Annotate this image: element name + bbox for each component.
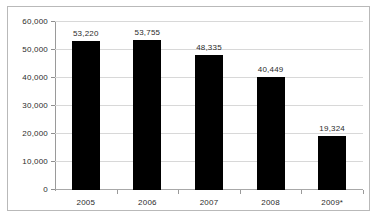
y-axis-label-20000: 20,000 (22, 129, 48, 138)
bar-value-label: 19,324 (319, 124, 345, 133)
bar-value-label: 48,335 (196, 43, 222, 52)
bar-value-label: 53,220 (73, 29, 99, 38)
bar[interactable] (318, 136, 346, 190)
y-axis-label-40000: 40,000 (22, 73, 48, 82)
bar[interactable] (72, 41, 100, 190)
x-axis-label: 2007 (200, 198, 219, 207)
bar-value-label: 53,755 (135, 28, 161, 37)
plot-area: 010,00020,00030,00040,00050,00060,000 53… (55, 22, 363, 190)
bar-value-label: 40,449 (258, 65, 284, 74)
x-tick-mark (178, 190, 179, 194)
x-tick-mark (363, 190, 364, 194)
bar[interactable] (195, 55, 223, 190)
chart-frame: 010,00020,00030,00040,00050,00060,000 53… (7, 6, 370, 211)
y-axis-label-60000: 60,000 (22, 17, 48, 26)
bar-group-2008: 40,4492008 (240, 22, 302, 190)
x-tick-mark (117, 190, 118, 194)
bar[interactable] (257, 77, 285, 190)
bar-group-2009: 19,3242009* (301, 22, 363, 190)
x-tick-mark (240, 190, 241, 194)
bar-group-2006: 53,7552006 (117, 22, 179, 190)
x-axis-label: 2008 (261, 198, 280, 207)
y-axis-label-0: 0 (43, 185, 48, 194)
bar-group-2007: 48,3352007 (178, 22, 240, 190)
x-axis-label: 2009* (321, 198, 343, 207)
x-tick-mark (301, 190, 302, 194)
bar[interactable] (133, 40, 161, 191)
x-axis-label: 2005 (76, 198, 95, 207)
bar-group-2005: 53,2202005 (55, 22, 117, 190)
y-axis-label-50000: 50,000 (22, 45, 48, 54)
x-axis-label: 2006 (138, 198, 157, 207)
y-axis-label-30000: 30,000 (22, 101, 48, 110)
y-axis-label-10000: 10,000 (22, 157, 48, 166)
